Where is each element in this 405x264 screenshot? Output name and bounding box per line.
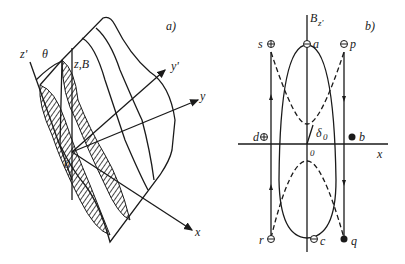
delta-label: δ [316,126,322,140]
arrow-down-right-bottom [342,180,346,186]
y-prime-label: y' [170,59,179,73]
label-r: r [259,233,264,247]
y-label: y [199,89,206,103]
label-q: q [351,234,357,248]
theta-label: θ [42,47,48,61]
delta-line [307,125,313,144]
arrow-down-right-top [342,96,346,102]
panel-a-label: a) [166,19,176,33]
bz-sub-label: z' [317,18,325,28]
label-a: a [313,37,319,51]
arrow-up-left-top [269,94,273,100]
diagram-canvas: a) z' θ z,B y' y x 0 [0,0,405,264]
panel-b: b) B z' x 0 δ 0 s a p d b r c q [238,11,388,252]
marker-q [341,236,348,243]
label-s: s [258,37,263,51]
y-prime-axis [72,70,165,152]
x-label-b: x [376,147,383,161]
panel-a: a) z' θ z,B y' y x 0 [19,17,206,242]
panel-b-label: b) [365,19,375,33]
origin-label-a: 0 [64,157,70,171]
z-prime-label: z' [19,47,28,61]
z-b-label: z,B [73,57,90,71]
label-d: d [253,130,260,144]
y-axis [72,100,198,152]
label-p: p [349,37,356,51]
origin-label-b: 0 [310,148,315,158]
arrow-up-left-bottom [269,184,273,190]
label-b: b [359,130,365,144]
delta-sub-label: 0 [323,132,328,142]
bz-label: B [310,11,318,25]
marker-b [349,134,356,141]
x-label: x [194,225,201,239]
label-c: c [320,234,326,248]
